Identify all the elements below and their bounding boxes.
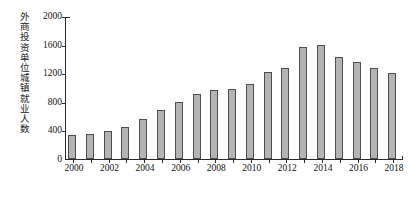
bar-slot: [83, 17, 101, 159]
bar-slot: [190, 17, 208, 159]
x-tick-label: 2012: [269, 163, 305, 173]
y-tick-label: 2000: [28, 12, 62, 21]
bar[interactable]: [370, 68, 378, 159]
bar[interactable]: [121, 127, 129, 159]
bar[interactable]: [281, 68, 289, 159]
y-tick-mark: [62, 17, 66, 18]
bar[interactable]: [264, 72, 272, 159]
bar-slot: [367, 17, 385, 159]
bar-slot: [385, 17, 403, 159]
bar[interactable]: [157, 110, 165, 159]
bar-slot: [296, 17, 314, 159]
x-tick-label: 2008: [198, 163, 234, 173]
bar-slot: [65, 17, 83, 159]
bar[interactable]: [388, 73, 396, 159]
y-tick-mark: [62, 103, 66, 104]
bar[interactable]: [104, 131, 112, 159]
y-tick-label: 1200: [28, 69, 62, 78]
x-tick-label: 2016: [341, 163, 377, 173]
x-tick-label: 2004: [127, 163, 163, 173]
bar-slot: [136, 17, 154, 159]
y-tick-label: 800: [28, 98, 62, 107]
y-tick-label: 1600: [28, 41, 62, 50]
bar[interactable]: [353, 62, 361, 159]
bar[interactable]: [139, 119, 147, 159]
bar-slot: [332, 17, 350, 159]
bar-slot: [154, 17, 172, 159]
bar[interactable]: [86, 134, 94, 159]
bar-slot: [172, 17, 190, 159]
bar-series: [65, 17, 403, 159]
bar-slot: [278, 17, 296, 159]
bar[interactable]: [210, 90, 218, 159]
bar[interactable]: [246, 84, 254, 159]
y-tick-mark: [62, 74, 66, 75]
x-tick-label: 2014: [305, 163, 341, 173]
bar-slot: [261, 17, 279, 159]
y-tick-label: 400: [28, 126, 62, 135]
x-tick-label: 2018: [376, 163, 411, 173]
y-tick-mark: [62, 131, 66, 132]
bar-slot: [314, 17, 332, 159]
bar[interactable]: [228, 89, 236, 159]
y-tick-mark: [62, 46, 66, 47]
plot-area: [65, 17, 403, 160]
bar-slot: [101, 17, 119, 159]
bar-slot: [225, 17, 243, 159]
bar[interactable]: [299, 47, 307, 159]
x-tick-label: 2010: [234, 163, 270, 173]
chart-figure: 外商投资单位城镇就业人数 0400800120016002000 2000200…: [0, 0, 411, 198]
bar[interactable]: [193, 94, 201, 159]
bar-slot: [118, 17, 136, 159]
x-axis-tick-labels: 2000200220042006200820102012201420162018: [65, 163, 403, 179]
bar[interactable]: [335, 57, 343, 159]
x-tick-label: 2002: [91, 163, 127, 173]
bar[interactable]: [317, 45, 325, 159]
x-tick-label: 2000: [56, 163, 92, 173]
bar-slot: [243, 17, 261, 159]
bar[interactable]: [175, 102, 183, 159]
bar-slot: [350, 17, 368, 159]
bar[interactable]: [68, 135, 76, 159]
x-tick-label: 2006: [163, 163, 199, 173]
bar-slot: [207, 17, 225, 159]
